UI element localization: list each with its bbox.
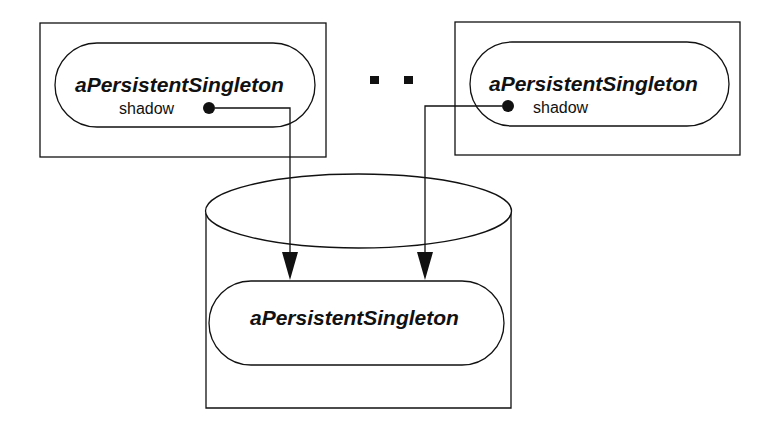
right-object-name: aPersistentSingleton [489,72,698,95]
ellipsis-dot-icon [404,76,413,84]
database-object-name: aPersistentSingleton [250,306,459,329]
ellipsis-separator [370,76,413,84]
ellipsis-dot-icon [370,76,379,84]
database-cylinder: aPersistentSingleton [206,174,512,408]
right-process-box: aPersistentSingleton shadow [455,22,740,155]
right-arrowhead-icon [417,252,433,280]
left-object-name: aPersistentSingleton [75,73,284,96]
right-shadow-dot-icon [502,100,514,112]
left-shadow-label: shadow [119,100,175,117]
left-shadow-dot-icon [203,102,215,114]
left-arrowhead-icon [282,252,298,280]
database-top [206,174,512,248]
right-shadow-label: shadow [533,99,589,116]
persistent-singleton-diagram: aPersistentSingleton shadow aPersistentS… [0,0,775,429]
left-process-box: aPersistentSingleton shadow [40,23,326,157]
